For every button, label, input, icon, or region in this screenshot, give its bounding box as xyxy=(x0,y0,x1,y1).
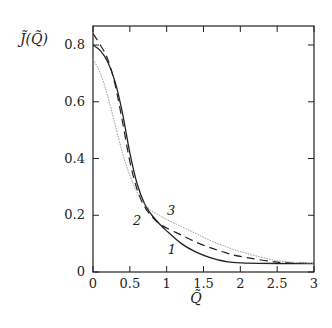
curves xyxy=(93,34,314,264)
x-tick-label: 2 xyxy=(236,276,244,291)
curve-label-2: 2 xyxy=(132,213,141,228)
curve-labels: 123 xyxy=(132,203,176,256)
y-tick-label: 0 xyxy=(77,264,85,279)
y-tick-label: 0.6 xyxy=(64,94,85,109)
curve-1 xyxy=(93,45,314,264)
x-tick-label: 2.5 xyxy=(267,276,288,291)
x-tick-label: 3 xyxy=(310,276,318,291)
x-tick-label: 1.5 xyxy=(193,276,214,291)
axes-box xyxy=(93,26,314,272)
plot-frame xyxy=(93,26,314,272)
x-tick-label: 0 xyxy=(89,276,97,291)
curve-label-3: 3 xyxy=(167,203,175,218)
line-chart: 00.511.522.53 00.20.40.60.8 123 J̃(Q̃) Q… xyxy=(0,0,332,328)
x-axis-title: Q̃ xyxy=(190,289,202,306)
curve-3 xyxy=(93,59,314,263)
y-tick-label: 0.2 xyxy=(64,207,85,222)
curve-label-1: 1 xyxy=(168,242,176,257)
y-tick-label: 0.4 xyxy=(64,151,85,166)
x-tick-label: 0.5 xyxy=(119,276,140,291)
x-tick-label: 1 xyxy=(163,276,171,291)
x-axis-ticks: 00.511.522.53 xyxy=(89,26,318,291)
y-tick-label: 0.8 xyxy=(64,37,85,52)
y-axis-ticks: 00.20.40.60.8 xyxy=(64,37,314,279)
y-axis-title: J̃(Q̃) xyxy=(17,30,48,47)
curve-2 xyxy=(93,34,314,264)
